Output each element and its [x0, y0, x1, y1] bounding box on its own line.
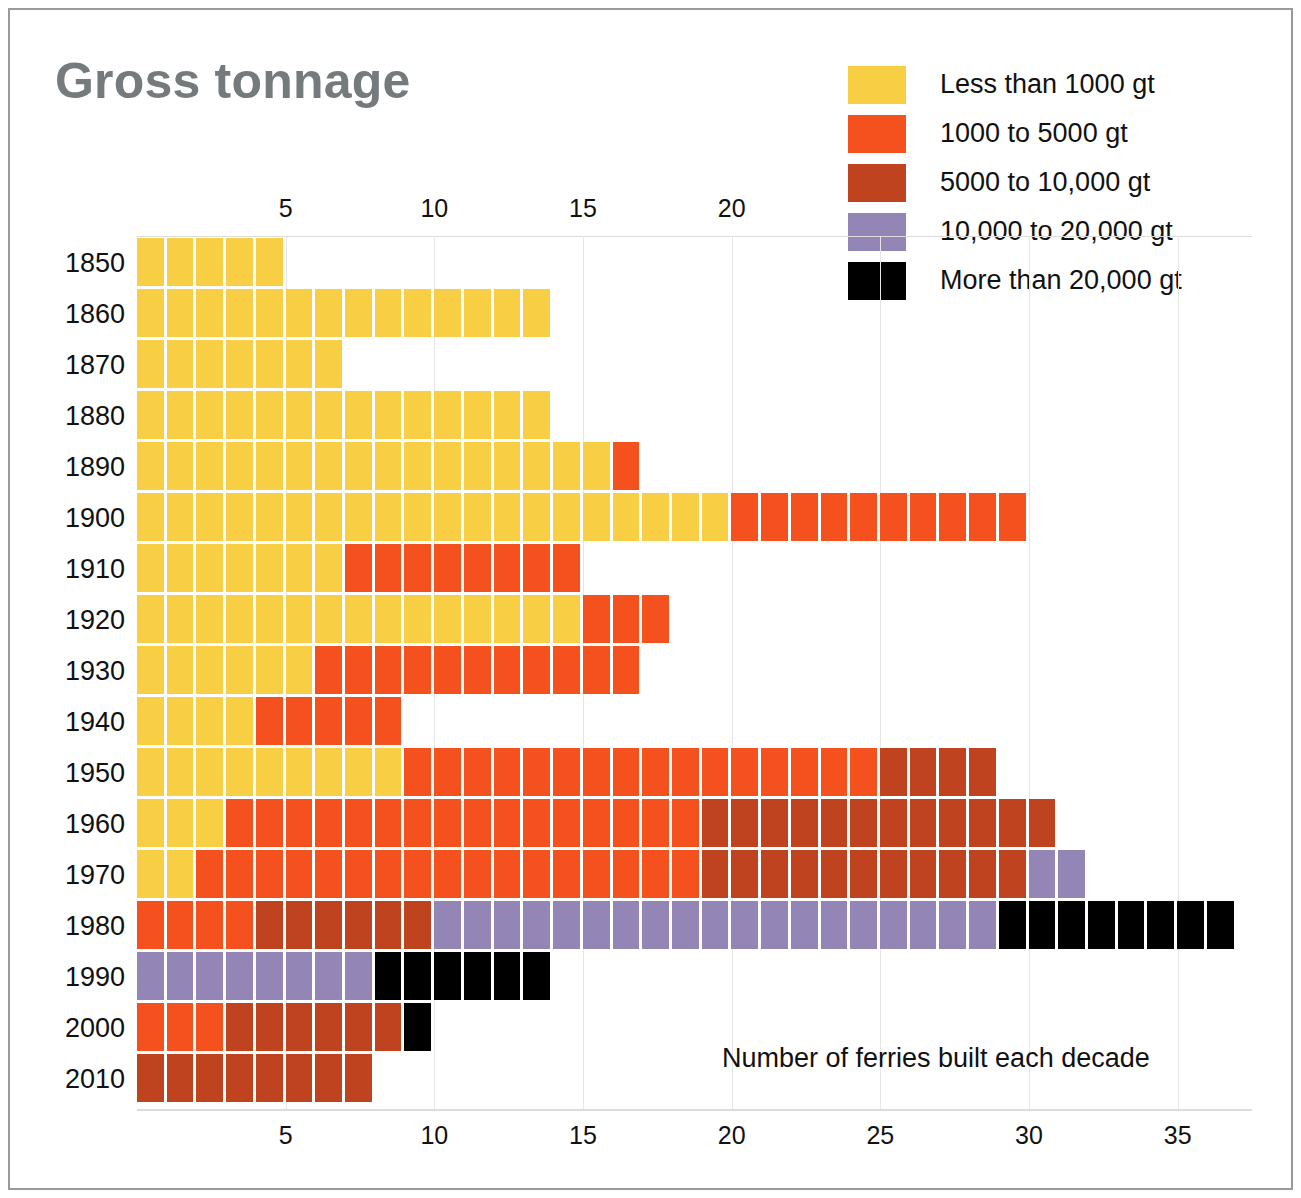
x-tick-top-label: 15 — [569, 194, 597, 223]
y-axis-tick-label: 1920 — [55, 605, 125, 636]
x-axis-bottom-ticks: 5101520253035 — [137, 1113, 1252, 1153]
y-axis-labels: 1850186018701880189019001910192019301940… — [0, 236, 1252, 1111]
y-axis-tick-label: 1950 — [55, 758, 125, 789]
x-tick-bottom-label: 5 — [279, 1121, 293, 1150]
y-axis-tick-label: 1880 — [55, 401, 125, 432]
legend-item: Less than 1000 gt — [848, 60, 1182, 109]
y-axis-tick-label: 2000 — [55, 1013, 125, 1044]
y-axis-tick-label: 1860 — [55, 299, 125, 330]
y-axis-tick-label: 1930 — [55, 656, 125, 687]
legend-item-label: Less than 1000 gt — [940, 69, 1155, 100]
chart-page: Gross tonnage Less than 1000 gt1000 to 5… — [0, 0, 1301, 1198]
y-axis-tick-label: 1850 — [55, 248, 125, 279]
legend-swatch-icon — [848, 115, 906, 153]
legend-swatch-icon — [848, 66, 906, 104]
x-tick-bottom-label: 10 — [420, 1121, 448, 1150]
y-axis-tick-label: 1990 — [55, 962, 125, 993]
y-axis-tick-label: 1900 — [55, 503, 125, 534]
legend-item: 5000 to 10,000 gt — [848, 158, 1182, 207]
x-axis-label: Number of ferries built each decade — [722, 1043, 1150, 1074]
legend-swatch-icon — [848, 164, 906, 202]
y-axis-tick-label: 1870 — [55, 350, 125, 381]
x-tick-bottom-label: 35 — [1164, 1121, 1192, 1150]
y-axis-tick-label: 1960 — [55, 809, 125, 840]
legend-item-label: 5000 to 10,000 gt — [940, 167, 1150, 198]
y-axis-tick-label: 1980 — [55, 911, 125, 942]
x-tick-bottom-label: 20 — [718, 1121, 746, 1150]
y-axis-tick-label: 2010 — [55, 1064, 125, 1095]
x-tick-bottom-label: 25 — [866, 1121, 894, 1150]
y-axis-tick-label: 1940 — [55, 707, 125, 738]
x-tick-top-label: 10 — [420, 194, 448, 223]
legend-item-label: 1000 to 5000 gt — [940, 118, 1128, 149]
page-title: Gross tonnage — [55, 52, 410, 110]
y-axis-tick-label: 1910 — [55, 554, 125, 585]
legend-item: 1000 to 5000 gt — [848, 109, 1182, 158]
x-tick-bottom-label: 30 — [1015, 1121, 1043, 1150]
y-axis-tick-label: 1970 — [55, 860, 125, 891]
x-tick-top-label: 5 — [279, 194, 293, 223]
x-tick-bottom-label: 15 — [569, 1121, 597, 1150]
x-tick-top-label: 20 — [718, 194, 746, 223]
y-axis-tick-label: 1890 — [55, 452, 125, 483]
